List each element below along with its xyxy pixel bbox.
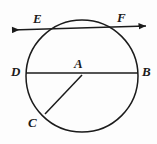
secant-EF-line — [12, 26, 146, 30]
label-point-C: C — [28, 116, 37, 129]
label-point-F: F — [117, 11, 126, 24]
circle-geometry-figure: E F D B A C — [0, 0, 157, 144]
label-point-B: B — [142, 65, 151, 78]
label-point-A: A — [74, 57, 83, 70]
label-point-E: E — [33, 12, 42, 25]
geometry-canvas — [0, 0, 157, 144]
label-point-D: D — [11, 65, 20, 78]
radius-AC-segment — [45, 75, 82, 114]
